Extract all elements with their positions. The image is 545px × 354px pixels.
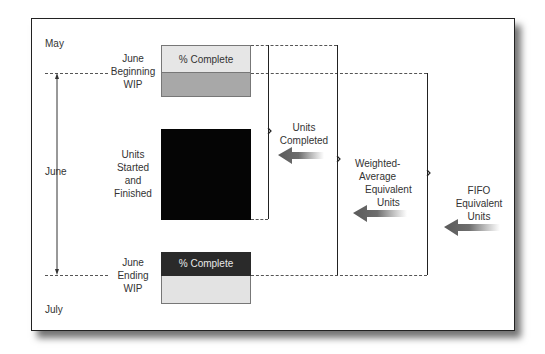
fifo-label-line: Units bbox=[454, 210, 504, 223]
weighted-average-label: Weighted- Average Equivalent Units bbox=[355, 157, 415, 209]
units-completed-label: Units Completed bbox=[274, 121, 334, 147]
brace-tip-icon bbox=[337, 156, 340, 162]
units-completed-label-line: Completed bbox=[274, 134, 334, 147]
weighted-average-label-line: Units bbox=[355, 196, 415, 209]
brace-tip-icon bbox=[427, 170, 430, 176]
brace-tip-icon bbox=[268, 128, 271, 134]
weighted-average-label-line: Weighted- bbox=[355, 157, 415, 170]
fifo-label: FIFO Equivalent Units bbox=[454, 184, 504, 223]
fifo-label-line: FIFO bbox=[454, 184, 504, 197]
weighted-average-label-line: Equivalent bbox=[355, 183, 415, 196]
units-completed-label-line: Units bbox=[274, 121, 334, 134]
weighted-average-label-line: Average bbox=[355, 170, 415, 183]
left-arrow-icon bbox=[278, 147, 324, 164]
diagram-graphics bbox=[0, 0, 545, 354]
fifo-label-line: Equivalent bbox=[454, 197, 504, 210]
double-arrow-vertical-icon bbox=[55, 73, 59, 275]
